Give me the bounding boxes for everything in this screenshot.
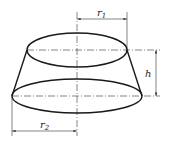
r1-label: r1 <box>97 7 106 20</box>
right-slant-edge <box>127 50 142 96</box>
h-label: h <box>145 68 151 79</box>
left-slant-edge <box>12 50 27 96</box>
frustum-diagram: r1 h r2 <box>0 0 173 146</box>
r2-label: r2 <box>40 119 50 132</box>
